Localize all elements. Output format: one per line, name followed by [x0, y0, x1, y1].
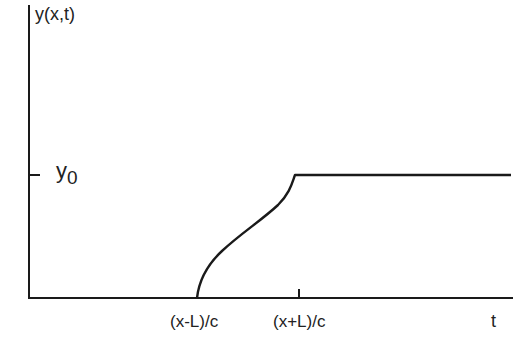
- response-curve: [197, 175, 511, 298]
- plot-canvas: [0, 0, 530, 345]
- x-axis-label: t: [491, 311, 496, 332]
- x-tick-label-end: (x+L)/c: [273, 312, 325, 332]
- y0-label: y0: [56, 158, 78, 189]
- y-axis-label: y(x,t): [35, 4, 75, 25]
- x-tick-label-start: (x-L)/c: [170, 312, 218, 332]
- y0-main: y: [56, 158, 67, 183]
- y0-subscript: 0: [67, 167, 78, 188]
